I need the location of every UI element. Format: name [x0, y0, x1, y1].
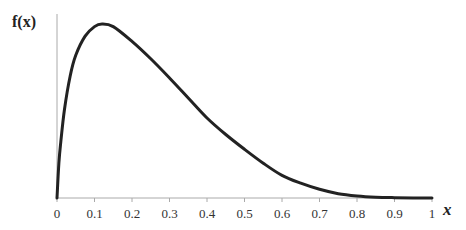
x-tick-label: 0.4 [199, 206, 216, 221]
x-tick-label: 0.3 [161, 206, 177, 221]
x-tick-label: 0.7 [311, 206, 328, 221]
x-tick-label: 0.8 [349, 206, 365, 221]
x-tick-label: 0.5 [236, 206, 252, 221]
chart: f(x) 00.10.20.30.40.50.60.70.80.91 x [0, 0, 466, 230]
density-curve [57, 24, 432, 198]
x-tick-label: 0.1 [86, 206, 102, 221]
x-tick-label: 1 [429, 206, 436, 221]
x-tick-label: 0.9 [386, 206, 402, 221]
x-tick-label: 0 [54, 206, 61, 221]
x-tick-label: 0.6 [274, 206, 291, 221]
x-tick-label: 0.2 [124, 206, 140, 221]
x-axis-ticks: 00.10.20.30.40.50.60.70.80.91 [54, 198, 436, 221]
x-axis-label: x [442, 200, 452, 219]
y-axis-label: f(x) [12, 13, 36, 31]
